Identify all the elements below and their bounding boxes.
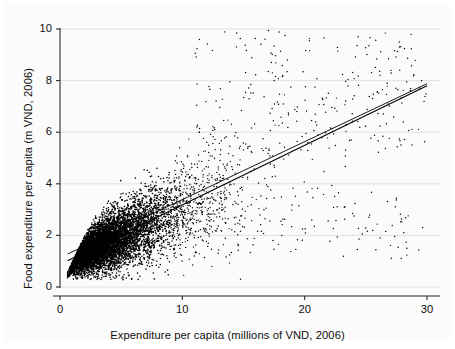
scatter-point xyxy=(204,186,205,187)
scatter-point xyxy=(73,271,75,273)
scatter-point xyxy=(148,190,150,192)
scatter-point-low xyxy=(224,222,225,223)
scatter-point xyxy=(162,253,164,255)
scatter-point xyxy=(158,238,160,240)
scatter-point xyxy=(89,240,91,242)
scatter-point xyxy=(119,220,121,222)
scatter-point-outlier xyxy=(406,81,407,82)
scatter-point-outlier xyxy=(411,48,412,49)
scatter-point xyxy=(82,243,84,245)
scatter-point xyxy=(201,161,202,162)
scatter-point xyxy=(160,190,162,192)
scatter-point xyxy=(125,215,127,217)
scatter-point xyxy=(220,191,221,192)
scatter-point xyxy=(224,187,225,188)
scatter-point xyxy=(111,226,113,228)
scatter-point xyxy=(209,202,210,203)
scatter-point-outlier xyxy=(196,83,197,84)
scatter-point-outlier xyxy=(283,103,284,104)
scatter-point xyxy=(292,188,293,189)
scatter-point xyxy=(265,207,266,208)
scatter-point xyxy=(113,276,115,278)
scatter-point xyxy=(154,241,156,243)
scatter-point xyxy=(283,158,284,159)
scatter-point xyxy=(78,274,80,276)
scatter-point xyxy=(163,223,165,225)
scatter-point xyxy=(95,217,97,219)
scatter-point xyxy=(116,272,118,274)
scatter-point xyxy=(140,193,142,195)
scatter-point xyxy=(176,162,177,163)
scatter-point xyxy=(212,126,213,127)
scatter-point xyxy=(181,260,182,261)
scatter-point xyxy=(187,240,188,241)
scatter-point xyxy=(275,176,276,177)
scatter-point xyxy=(132,255,134,257)
scatter-point xyxy=(132,197,134,199)
scatter-point xyxy=(107,238,109,240)
scatter-point xyxy=(164,228,166,230)
scatter-point xyxy=(129,198,131,200)
scatter-point-low xyxy=(218,225,219,226)
scatter-point xyxy=(230,184,231,185)
scatter-point xyxy=(120,254,122,256)
scatter-point xyxy=(152,238,154,240)
scatter-point xyxy=(245,210,246,211)
scatter-plot-svg xyxy=(0,0,455,349)
scatter-point xyxy=(110,274,112,276)
scatter-point xyxy=(161,223,163,225)
scatter-point xyxy=(183,165,184,166)
scatter-point xyxy=(161,220,163,222)
scatter-point xyxy=(91,263,93,265)
scatter-point xyxy=(237,222,238,223)
scatter-point xyxy=(168,227,170,229)
scatter-point xyxy=(167,199,169,201)
scatter-point xyxy=(131,235,133,237)
scatter-point xyxy=(128,244,130,246)
scatter-point-outlier xyxy=(241,110,242,111)
scatter-point xyxy=(261,148,262,149)
scatter-point xyxy=(277,101,278,102)
scatter-point xyxy=(140,243,142,245)
scatter-point xyxy=(184,184,185,185)
scatter-point xyxy=(247,177,248,178)
scatter-point xyxy=(146,253,148,255)
scatter-point xyxy=(160,200,162,202)
scatter-point xyxy=(167,187,169,189)
scatter-point-low xyxy=(221,230,222,231)
scatter-point xyxy=(327,137,328,138)
scatter-point xyxy=(162,229,164,231)
scatter-point xyxy=(82,270,84,272)
scatter-point xyxy=(158,266,160,268)
scatter-point xyxy=(220,149,221,150)
scatter-point xyxy=(208,182,209,183)
scatter-point xyxy=(99,246,101,248)
scatter-point xyxy=(128,196,130,198)
scatter-point xyxy=(153,220,155,222)
scatter-point xyxy=(291,204,292,205)
scatter-point xyxy=(89,262,91,264)
scatter-point xyxy=(109,264,111,266)
scatter-point xyxy=(89,271,91,273)
scatter-point xyxy=(89,267,91,269)
scatter-point xyxy=(188,229,189,230)
scatter-point xyxy=(207,175,208,176)
scatter-point xyxy=(154,207,156,209)
scatter-point xyxy=(209,228,210,229)
scatter-point xyxy=(108,231,110,233)
scatter-point xyxy=(106,216,108,218)
scatter-point xyxy=(99,265,101,267)
scatter-point xyxy=(211,226,212,227)
scatter-point xyxy=(108,209,110,211)
scatter-point-low xyxy=(225,238,226,239)
scatter-point xyxy=(156,221,158,223)
scatter-point-low xyxy=(365,227,366,228)
scatter-point-low xyxy=(344,207,345,208)
scatter-point xyxy=(73,262,75,264)
scatter-point xyxy=(177,203,178,204)
scatter-point xyxy=(172,216,173,217)
scatter-point xyxy=(154,240,156,242)
scatter-point xyxy=(152,228,154,230)
scatter-point xyxy=(143,243,145,245)
scatter-point xyxy=(155,233,157,235)
